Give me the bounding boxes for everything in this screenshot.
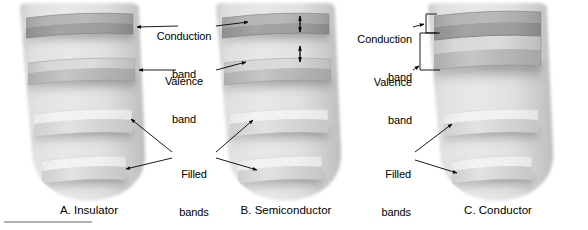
label-filled-bands-conductor-line1: Filled xyxy=(365,168,411,181)
label-valence-band-line1: Valence xyxy=(155,75,213,88)
conductor-filled-band-lower xyxy=(452,156,532,194)
label-filled-bands-line2: bands xyxy=(171,206,217,219)
conductor-overlapping-bands xyxy=(434,11,541,86)
insulator-valence-band xyxy=(28,58,135,96)
label-valence-band-line2: band xyxy=(155,113,213,126)
insulator-conduction-band xyxy=(26,13,133,48)
caption-semiconductor: B. Semiconductor xyxy=(216,204,356,216)
label-filled-bands-line1: Filled xyxy=(171,168,217,181)
label-filled-bands-conductor-line2: bands xyxy=(365,206,411,219)
label-valence-band-conductor: Valence band xyxy=(351,51,412,139)
label-conduction-band-conductor-line1: Conduction xyxy=(347,33,412,46)
label-filled-bands-conductor: Filled bands xyxy=(365,143,411,230)
insulator-filled-band-upper xyxy=(34,109,132,147)
panel-semiconductor xyxy=(216,3,342,201)
panel-insulator xyxy=(20,3,146,201)
semiconductor-conduction-band xyxy=(222,13,329,48)
conductor-filled-band-upper xyxy=(444,109,538,147)
label-valence-band: Valence band xyxy=(155,50,213,138)
label-valence-band-conductor-line2: band xyxy=(351,114,412,127)
insulator-filled-band-lower xyxy=(42,156,126,194)
energy-band-diagram: Conduction band Valence band Filled band… xyxy=(0,0,588,230)
caption-insulator: A. Insulator xyxy=(34,204,144,216)
semiconductor-filled-band-upper xyxy=(230,109,328,147)
caption-conductor: C. Conductor xyxy=(438,204,558,216)
label-conduction-band-line1: Conduction xyxy=(153,30,215,43)
label-filled-bands: Filled bands xyxy=(171,143,217,230)
diagram-canvas xyxy=(0,0,588,230)
semiconductor-filled-band-lower xyxy=(238,156,322,194)
label-valence-band-conductor-line1: Valence xyxy=(351,76,412,89)
